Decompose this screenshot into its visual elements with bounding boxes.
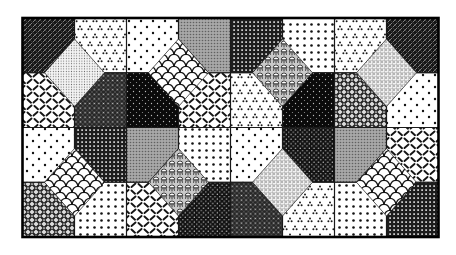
tessellation-figure: [0, 0, 456, 255]
tessellation-root: [0, 0, 456, 255]
tessellation-svg: [0, 0, 456, 255]
